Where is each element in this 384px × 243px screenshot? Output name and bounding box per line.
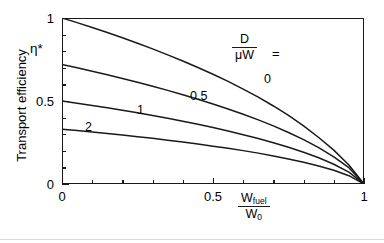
curve-label-1: 1 bbox=[137, 104, 144, 117]
legend-numerator: D bbox=[232, 33, 257, 47]
y-axis-title: Transport efficiency bbox=[14, 31, 29, 181]
x-tick-1 bbox=[364, 178, 365, 184]
legend-parameter-fraction: D μW bbox=[232, 33, 257, 61]
y-tick-0p7 bbox=[62, 68, 66, 69]
x-axis-title-numerator: Wfuel bbox=[238, 192, 270, 206]
x-tick-0p1 bbox=[92, 180, 93, 184]
y-tick-0p8 bbox=[62, 51, 66, 52]
curve-0 bbox=[62, 18, 364, 184]
y-tick-0p9 bbox=[62, 35, 66, 36]
curve-layer bbox=[62, 18, 364, 184]
x-tick-0p8 bbox=[304, 180, 305, 184]
curve-label-2: 2 bbox=[85, 121, 92, 134]
x-tick-0p2 bbox=[122, 180, 123, 184]
x-tick-0p4 bbox=[183, 180, 184, 184]
x-tick-0 bbox=[62, 178, 63, 184]
y-tick-0 bbox=[62, 184, 69, 185]
legend-denominator: μW bbox=[232, 48, 257, 62]
x-axis-title: Wfuel W0 bbox=[238, 192, 270, 220]
curve-label-0p5: 0.5 bbox=[190, 90, 207, 103]
x-axis-title-denominator-sub: 0 bbox=[257, 212, 262, 222]
x-tick-0p3 bbox=[153, 180, 154, 184]
x-axis-title-denominator: W0 bbox=[238, 207, 270, 221]
y-tick-0p2 bbox=[62, 151, 66, 152]
x-tick-0p9 bbox=[334, 180, 335, 184]
x-tick-0p5 bbox=[213, 178, 214, 184]
x-axis-title-numerator-base: W bbox=[241, 191, 253, 205]
x-axis-title-numerator-sub: fuel bbox=[253, 196, 267, 206]
scan-artifact-line bbox=[0, 239, 384, 240]
x-tick-label-0: 0 bbox=[52, 190, 72, 203]
y-tick-0p5 bbox=[62, 101, 69, 102]
y-tick-label-1: 1 bbox=[18, 12, 54, 25]
legend-equals-sign: = bbox=[272, 46, 280, 61]
x-tick-label-1: 1 bbox=[354, 190, 374, 203]
y-tick-0p1 bbox=[62, 167, 66, 168]
x-axis-title-denominator-base: W bbox=[245, 207, 257, 221]
y-tick-0p4 bbox=[62, 118, 66, 119]
y-tick-0p3 bbox=[62, 134, 66, 135]
curve-label-0: 0 bbox=[264, 73, 271, 86]
y-tick-1 bbox=[62, 18, 69, 19]
x-tick-label-0p5: 0.5 bbox=[198, 190, 228, 203]
curve-1 bbox=[62, 101, 364, 184]
y-tick-0p6 bbox=[62, 84, 66, 85]
eta-star-label: η* bbox=[30, 41, 43, 56]
x-tick-0p7 bbox=[273, 180, 274, 184]
x-tick-0p6 bbox=[243, 180, 244, 184]
chart-figure: 1 0.5 0 η* 0 0.5 1 Transport efficiency … bbox=[0, 0, 384, 243]
